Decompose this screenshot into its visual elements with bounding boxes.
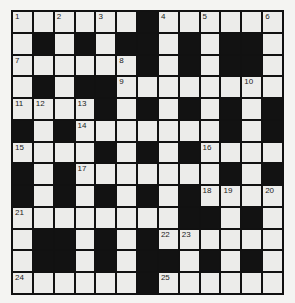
answer-square[interactable]	[13, 230, 32, 250]
answer-square[interactable]	[55, 34, 74, 54]
answer-square[interactable]: 9	[117, 77, 136, 97]
answer-square[interactable]	[76, 56, 95, 76]
answer-square[interactable]: 15	[13, 143, 32, 163]
answer-square[interactable]	[159, 77, 178, 97]
answer-square[interactable]	[96, 34, 115, 54]
answer-square[interactable]	[55, 273, 74, 293]
answer-square[interactable]: 2	[55, 12, 74, 32]
answer-square[interactable]	[34, 186, 53, 206]
answer-square[interactable]	[138, 121, 157, 141]
answer-square[interactable]	[263, 208, 282, 228]
answer-square[interactable]	[180, 251, 199, 271]
answer-square[interactable]	[55, 56, 74, 76]
answer-square[interactable]	[34, 56, 53, 76]
answer-square[interactable]	[76, 143, 95, 163]
answer-square[interactable]	[117, 12, 136, 32]
answer-square[interactable]	[242, 143, 261, 163]
answer-square[interactable]	[34, 12, 53, 32]
answer-square[interactable]	[221, 208, 240, 228]
answer-square[interactable]: 4	[159, 12, 178, 32]
answer-square[interactable]	[117, 99, 136, 119]
answer-square[interactable]	[76, 273, 95, 293]
answer-square[interactable]	[201, 77, 220, 97]
answer-square[interactable]	[159, 34, 178, 54]
answer-square[interactable]	[117, 121, 136, 141]
answer-square[interactable]	[180, 164, 199, 184]
answer-square[interactable]	[263, 77, 282, 97]
answer-square[interactable]	[34, 164, 53, 184]
answer-square[interactable]	[34, 208, 53, 228]
answer-square[interactable]	[180, 12, 199, 32]
answer-square[interactable]	[201, 56, 220, 76]
answer-square[interactable]	[76, 230, 95, 250]
answer-square[interactable]	[76, 208, 95, 228]
answer-square[interactable]	[117, 186, 136, 206]
answer-square[interactable]: 21	[13, 208, 32, 228]
answer-square[interactable]	[180, 77, 199, 97]
answer-square[interactable]	[138, 77, 157, 97]
answer-square[interactable]	[242, 273, 261, 293]
answer-square[interactable]	[221, 273, 240, 293]
answer-square[interactable]: 17	[76, 164, 95, 184]
answer-square[interactable]: 8	[117, 56, 136, 76]
answer-square[interactable]	[76, 251, 95, 271]
answer-square[interactable]	[221, 230, 240, 250]
answer-square[interactable]	[96, 164, 115, 184]
answer-square[interactable]: 10	[242, 77, 261, 97]
answer-square[interactable]	[180, 273, 199, 293]
answer-square[interactable]	[159, 208, 178, 228]
answer-square[interactable]	[263, 56, 282, 76]
answer-square[interactable]: 18	[201, 186, 220, 206]
answer-square[interactable]	[242, 230, 261, 250]
answer-square[interactable]	[221, 12, 240, 32]
answer-square[interactable]	[96, 56, 115, 76]
answer-square[interactable]	[201, 99, 220, 119]
answer-square[interactable]	[180, 121, 199, 141]
answer-square[interactable]	[13, 77, 32, 97]
answer-square[interactable]	[117, 251, 136, 271]
answer-square[interactable]: 14	[76, 121, 95, 141]
answer-square[interactable]	[76, 186, 95, 206]
answer-square[interactable]	[13, 251, 32, 271]
answer-square[interactable]	[201, 121, 220, 141]
answer-square[interactable]	[117, 230, 136, 250]
answer-square[interactable]	[263, 34, 282, 54]
answer-square[interactable]	[201, 164, 220, 184]
answer-square[interactable]	[117, 164, 136, 184]
answer-square[interactable]: 11	[13, 99, 32, 119]
answer-square[interactable]	[117, 208, 136, 228]
answer-square[interactable]	[159, 56, 178, 76]
answer-square[interactable]	[159, 121, 178, 141]
answer-square[interactable]	[55, 77, 74, 97]
answer-square[interactable]	[201, 230, 220, 250]
answer-square[interactable]: 12	[34, 99, 53, 119]
answer-square[interactable]: 23	[180, 230, 199, 250]
answer-square[interactable]: 6	[263, 12, 282, 32]
answer-square[interactable]	[34, 273, 53, 293]
answer-square[interactable]: 25	[159, 273, 178, 293]
answer-square[interactable]	[117, 143, 136, 163]
answer-square[interactable]	[138, 164, 157, 184]
answer-square[interactable]	[263, 230, 282, 250]
answer-square[interactable]	[263, 143, 282, 163]
answer-square[interactable]	[221, 143, 240, 163]
answer-square[interactable]	[34, 121, 53, 141]
answer-square[interactable]	[55, 143, 74, 163]
answer-square[interactable]	[221, 251, 240, 271]
answer-square[interactable]	[159, 99, 178, 119]
answer-square[interactable]	[159, 164, 178, 184]
answer-square[interactable]	[117, 273, 136, 293]
answer-square[interactable]	[34, 143, 53, 163]
answer-square[interactable]	[96, 208, 115, 228]
answer-square[interactable]: 3	[96, 12, 115, 32]
answer-square[interactable]	[242, 99, 261, 119]
answer-square[interactable]	[96, 121, 115, 141]
answer-square[interactable]	[55, 208, 74, 228]
answer-square[interactable]	[159, 186, 178, 206]
answer-square[interactable]: 22	[159, 230, 178, 250]
answer-square[interactable]	[263, 251, 282, 271]
answer-square[interactable]: 7	[13, 56, 32, 76]
answer-square[interactable]	[138, 208, 157, 228]
answer-square[interactable]	[242, 164, 261, 184]
answer-square[interactable]: 1	[13, 12, 32, 32]
